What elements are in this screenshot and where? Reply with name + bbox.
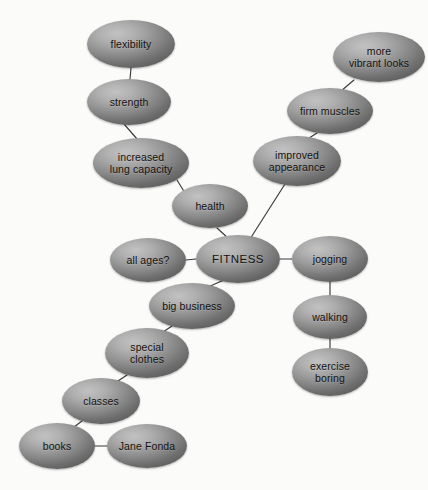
node-jane_fonda[interactable]: Jane Fonda [107, 424, 187, 468]
node-exercise_boring[interactable]: exercise boring [292, 348, 368, 396]
node-label-increased_lung: increased lung capacity [107, 151, 176, 176]
node-firm_muscles[interactable]: firm muscles [287, 88, 373, 134]
node-layer: flexibilitystrengthincreased lung capaci… [0, 0, 428, 490]
node-fitness[interactable]: FITNESS [196, 235, 280, 283]
node-walking[interactable]: walking [293, 295, 367, 339]
node-label-exercise_boring: exercise boring [307, 360, 353, 385]
node-books[interactable]: books [19, 423, 95, 469]
node-label-flexibility: flexibility [108, 38, 155, 51]
node-label-classes: classes [80, 395, 122, 408]
node-label-improved_appear: improved appearance [266, 149, 328, 174]
node-big_business[interactable]: big business [149, 283, 235, 329]
node-label-jane_fonda: Jane Fonda [116, 440, 178, 453]
node-more_vibrant[interactable]: more vibrant looks [333, 32, 425, 82]
mind-map-canvas: flexibilitystrengthincreased lung capaci… [0, 0, 428, 490]
node-flexibility[interactable]: flexibility [87, 20, 175, 68]
node-label-more_vibrant: more vibrant looks [346, 45, 412, 70]
node-label-jogging: jogging [310, 253, 351, 266]
node-label-books: books [40, 440, 75, 453]
node-label-special_clothes: special clothes [127, 341, 167, 366]
node-label-fitness: FITNESS [209, 253, 267, 266]
node-label-all_ages: all ages? [124, 254, 173, 267]
node-classes[interactable]: classes [62, 378, 140, 424]
node-jogging[interactable]: jogging [292, 236, 368, 282]
node-increased_lung[interactable]: increased lung capacity [93, 138, 189, 188]
node-special_clothes[interactable]: special clothes [105, 328, 189, 378]
node-label-firm_muscles: firm muscles [297, 105, 363, 118]
node-label-walking: walking [309, 311, 351, 324]
node-label-health: health [192, 200, 227, 213]
node-all_ages[interactable]: all ages? [110, 238, 186, 282]
node-improved_appear[interactable]: improved appearance [253, 136, 341, 186]
node-health[interactable]: health [172, 184, 248, 228]
node-label-strength: strength [107, 96, 152, 109]
node-strength[interactable]: strength [87, 79, 171, 125]
node-label-big_business: big business [159, 300, 225, 313]
